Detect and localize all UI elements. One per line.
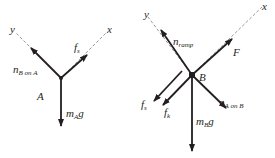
y-axis-label-a: y — [9, 23, 15, 35]
weight-label-a: mAg — [66, 107, 84, 121]
applied-force-arrow-b — [192, 39, 232, 75]
diagram-block-b: y x nramp F nA on B mBg fs fk B — [141, 0, 267, 151]
weight-label-b: mBg — [196, 115, 214, 129]
static-friction-label-b: fs — [141, 98, 147, 112]
body-label-b: B — [199, 71, 206, 83]
kinetic-friction-label-b: fk — [164, 106, 171, 120]
normal-force-label-a: nB on A — [13, 63, 38, 77]
particle-b — [189, 72, 195, 78]
free-body-diagrams: y x nB on A fs mAg A y x nramp F nA on B… — [0, 0, 275, 158]
static-friction-arrow-a — [61, 55, 87, 78]
static-friction-label-a: fs — [74, 41, 80, 55]
static-friction-arrow-b — [154, 71, 182, 101]
particle-a — [59, 76, 63, 80]
kinetic-friction-arrow-b — [163, 75, 192, 105]
normal-a-on-b-label-b: nA on B — [219, 96, 244, 110]
y-axis-label-b: y — [143, 8, 149, 20]
normal-ramp-label-b: nramp — [173, 35, 194, 49]
diagram-block-a: y x nB on A fs mAg A — [9, 23, 112, 126]
x-axis-label-a: x — [106, 23, 112, 35]
x-axis-label-b: x — [261, 0, 267, 12]
body-label-a: A — [36, 90, 44, 102]
applied-force-label-b: F — [232, 46, 240, 58]
